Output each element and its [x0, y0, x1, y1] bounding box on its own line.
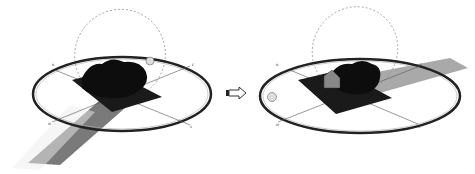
compass-label-s: S: [418, 125, 420, 129]
compass-label-s: S: [190, 125, 192, 129]
diagram-before-svg: N E S W: [0, 0, 230, 174]
sun-icon: [146, 57, 154, 65]
compass-label-w: W: [276, 123, 279, 127]
compass-label-e: E: [420, 63, 422, 67]
sun-path-diagram-after: N E S W: [240, 0, 475, 174]
sun-icon: [268, 93, 277, 102]
diagram-after-svg: N E S W: [240, 0, 475, 174]
sun-path-diagram-before: N E S W: [0, 0, 230, 174]
compass-label-n: N: [276, 63, 278, 67]
compass-label-n: N: [52, 63, 54, 67]
compass-label-w: W: [48, 122, 51, 126]
compass-label-e: E: [192, 63, 194, 67]
